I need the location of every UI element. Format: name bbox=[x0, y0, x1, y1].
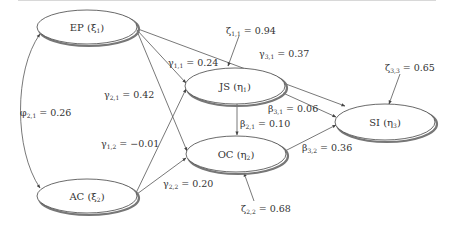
edge-zeta33-disturbance bbox=[389, 74, 400, 104]
label-zeta11: ζ1,1 = 0.94 bbox=[226, 25, 276, 37]
node-js: JS (η1) bbox=[185, 68, 287, 106]
label-beta31: β3,1 = 0.06 bbox=[268, 103, 318, 115]
node-js-label: JS (η1) bbox=[218, 81, 251, 93]
sem-path-diagram: EP (ξ1) AC (ξ2) JS (η1) OC (η2) SI (η3) … bbox=[0, 0, 452, 226]
label-phi21: φ2,1 = 0.26 bbox=[20, 107, 71, 119]
label-beta32: β3,2 = 0.36 bbox=[302, 142, 352, 154]
label-gamma31: γ3,1 = 0.37 bbox=[259, 48, 309, 60]
label-zeta22: ζ2,2 = 0.68 bbox=[241, 203, 291, 215]
label-gamma21: γ2,1 = 0.42 bbox=[104, 89, 154, 101]
node-si: SI (η3) bbox=[335, 104, 437, 142]
label-gamma11: γ1,1 = 0.24 bbox=[168, 57, 218, 69]
node-ep: EP (ξ1) bbox=[37, 10, 139, 46]
label-zeta33: ζ3,3 = 0.65 bbox=[385, 62, 435, 74]
edge-zeta11-disturbance bbox=[228, 36, 239, 66]
node-ac: AC (ξ2) bbox=[37, 179, 139, 215]
node-oc: OC (η2) bbox=[186, 136, 288, 174]
label-beta21: β2,1 = 0.10 bbox=[240, 118, 290, 130]
label-gamma22: γ2,2 = 0.20 bbox=[163, 178, 213, 190]
node-si-label: SI (η3) bbox=[369, 117, 401, 129]
edge-zeta22-disturbance bbox=[244, 173, 254, 201]
label-gamma12: γ1,2 = −0.01 bbox=[101, 138, 159, 150]
